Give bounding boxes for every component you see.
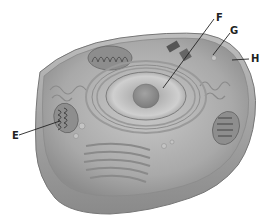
cell-illustration <box>0 0 267 224</box>
label-e: E <box>12 131 19 141</box>
mitochondrion-top <box>88 46 132 70</box>
cell-diagram: E F G H <box>0 0 267 224</box>
nucleolus <box>133 84 159 108</box>
label-f: F <box>216 13 223 23</box>
label-g: G <box>230 26 238 36</box>
label-h: H <box>251 54 259 64</box>
